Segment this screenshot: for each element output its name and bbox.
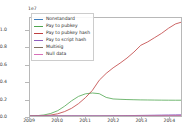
- series-line: [30, 93, 181, 116]
- legend-item[interactable]: Pay to pubkey hash: [34, 30, 90, 37]
- y-axis-exponent-label: 1e7: [28, 7, 37, 12]
- legend-label: Multisig: [46, 45, 63, 50]
- legend-color-swatch: [34, 54, 43, 55]
- legend-label: Pay to pubkey: [46, 24, 78, 29]
- chart-figure: 1e7 0.00.20.40.60.81.0 20092010201120122…: [0, 0, 191, 136]
- legend-item[interactable]: Nonstandard: [34, 16, 90, 23]
- x-tick-mark: [85, 117, 86, 121]
- x-tick-mark: [29, 117, 30, 121]
- legend-label: Pay to pubkey hash: [46, 31, 90, 36]
- legend-item[interactable]: Multisig: [34, 44, 90, 51]
- legend-color-swatch: [34, 40, 43, 41]
- legend-label: Pay to script hash: [46, 38, 86, 43]
- y-tick-label: 0.2: [0, 97, 7, 102]
- y-tick-label: 0.4: [0, 80, 7, 85]
- legend-color-swatch: [34, 19, 43, 20]
- chart-legend: NonstandardPay to pubkeyPay to pubkey ha…: [31, 13, 94, 61]
- legend-color-swatch: [34, 47, 43, 48]
- legend-color-swatch: [34, 33, 43, 34]
- x-tick-mark: [113, 117, 114, 121]
- y-tick-label: 1.0: [0, 28, 7, 33]
- legend-item[interactable]: Null data: [34, 51, 90, 58]
- x-tick-mark: [141, 117, 142, 121]
- y-tick-label: 0.8: [0, 45, 7, 50]
- x-tick-mark: [57, 117, 58, 121]
- x-tick-mark: [169, 117, 170, 121]
- y-tick-label: 0.6: [0, 63, 7, 68]
- legend-item[interactable]: Pay to script hash: [34, 37, 90, 44]
- legend-label: Null data: [46, 52, 66, 57]
- y-tick-label: 0.0: [0, 115, 7, 120]
- legend-color-swatch: [34, 26, 43, 27]
- legend-label: Nonstandard: [46, 17, 75, 22]
- legend-item[interactable]: Pay to pubkey: [34, 23, 90, 30]
